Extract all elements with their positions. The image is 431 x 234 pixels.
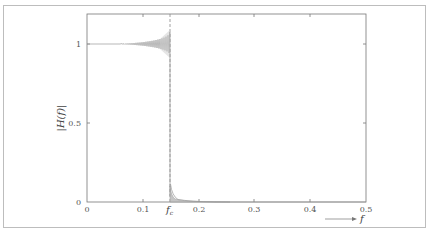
- y-axis-label: |H(f)|: [55, 105, 67, 132]
- x-tick-label: 0: [84, 205, 89, 214]
- passband-curve: [87, 32, 170, 53]
- top-ticks: [143, 14, 310, 17]
- stopband-decay-line: [171, 184, 367, 202]
- y-ticks: [87, 44, 366, 123]
- x-tick-label: 0.4: [304, 205, 317, 214]
- fc-label: fc: [165, 204, 174, 216]
- arrow-head-icon: [352, 217, 357, 221]
- plot-area: [87, 14, 366, 202]
- y-tick-label: 0.5: [68, 119, 81, 128]
- chart-canvas: 0 0.1 0.2 0.3 0.4 0.5 0 0.5 1 |H(f)| fc …: [0, 0, 431, 234]
- x-tick-label: 0.2: [193, 205, 206, 214]
- x-axis-label: f: [359, 213, 366, 224]
- ripple-envelope: [160, 30, 170, 58]
- y-tick-label: 1: [76, 40, 81, 49]
- y-tick-label: 0: [76, 198, 81, 207]
- bottom-ticks: [143, 199, 310, 202]
- x-tick-label: 0.1: [137, 205, 150, 214]
- x-tick-label: 0.3: [248, 205, 261, 214]
